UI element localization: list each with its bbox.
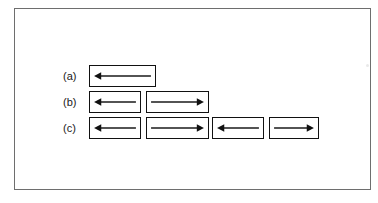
scan-artifact-speck [366, 64, 369, 67]
magnetization-arrow-left [90, 66, 155, 86]
domain-box [89, 117, 141, 139]
figure-root: (a)(b)(c) [0, 0, 378, 203]
domain-box [89, 91, 141, 113]
domain-box [146, 117, 209, 139]
domain-box [269, 117, 319, 139]
row-label: (c) [63, 117, 89, 139]
figure-border-frame: (a)(b)(c) [14, 8, 371, 190]
row-label: (b) [63, 91, 89, 113]
domain-box [212, 117, 264, 139]
row-label: (a) [63, 65, 89, 87]
domain-box [89, 65, 156, 87]
domain-box [146, 91, 209, 113]
magnetization-arrow-left [213, 118, 263, 138]
magnetization-arrow-right [147, 92, 208, 112]
magnetization-arrow-left [90, 92, 140, 112]
magnetization-arrow-right [147, 118, 208, 138]
magnetization-arrow-right [270, 118, 318, 138]
magnetization-arrow-left [90, 118, 140, 138]
